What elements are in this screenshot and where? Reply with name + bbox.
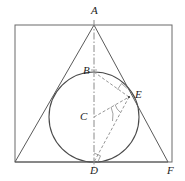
vertex-label-B: B bbox=[83, 65, 90, 76]
vertex-label-C: C bbox=[80, 111, 87, 122]
vertex-label-D: D bbox=[90, 165, 98, 176]
vertex-label-A: A bbox=[91, 5, 98, 16]
tangency-point-E bbox=[128, 96, 130, 98]
angle-arc-marker-C bbox=[111, 107, 113, 121]
angle-arc-marker-E bbox=[115, 105, 121, 113]
geometry-figure: A B C D E F bbox=[0, 0, 185, 181]
geometry-diagram bbox=[0, 0, 185, 181]
vertex-label-F: F bbox=[167, 165, 174, 176]
triangle-outline bbox=[15, 25, 168, 162]
vertex-label-E: E bbox=[135, 89, 142, 100]
